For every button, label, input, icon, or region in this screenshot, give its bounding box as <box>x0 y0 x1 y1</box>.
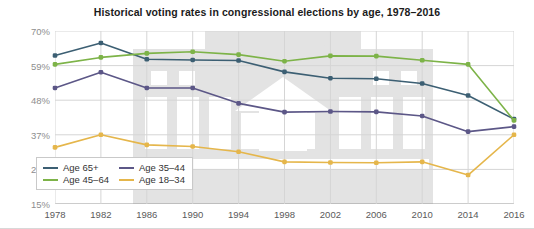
data-point-marker <box>466 62 471 67</box>
legend-color-swatch <box>119 179 134 181</box>
series-line <box>55 72 514 131</box>
x-axis-tick-label: 2014 <box>458 209 479 220</box>
data-point-marker <box>236 52 241 57</box>
data-point-marker <box>190 86 195 91</box>
y-axis-tick-label: 37% <box>6 129 50 140</box>
data-point-marker <box>466 129 471 134</box>
data-point-marker <box>236 101 241 106</box>
data-point-marker <box>145 57 150 62</box>
data-point-marker <box>466 173 471 178</box>
legend-label: Age 45–64 <box>63 174 109 185</box>
data-point-marker <box>420 114 425 119</box>
data-point-marker <box>374 160 379 165</box>
data-point-marker <box>374 54 379 59</box>
data-point-marker <box>420 58 425 63</box>
data-point-marker <box>374 77 379 82</box>
data-point-marker <box>190 49 195 54</box>
data-point-marker <box>236 58 241 63</box>
data-point-marker <box>420 81 425 86</box>
chart-container: Historical voting rates in congressional… <box>0 0 534 229</box>
legend-label: Age 35–44 <box>139 162 185 173</box>
data-point-marker <box>282 70 287 75</box>
x-axis-tick-label: 1990 <box>182 209 203 220</box>
data-point-marker <box>282 59 287 64</box>
data-point-marker <box>145 143 150 148</box>
data-point-marker <box>53 145 58 150</box>
data-point-marker <box>190 144 195 149</box>
data-point-marker <box>512 124 517 129</box>
x-axis-tick-label: 2016 <box>503 209 524 220</box>
x-axis-tick-label: 1978 <box>44 209 65 220</box>
data-point-marker <box>99 55 104 60</box>
data-point-marker <box>328 76 333 81</box>
legend-color-swatch <box>119 167 134 169</box>
data-point-marker <box>466 93 471 98</box>
legend-item[interactable]: Age 18–34 <box>119 174 185 185</box>
data-point-marker <box>190 58 195 63</box>
x-axis-tick-label: 2006 <box>366 209 387 220</box>
x-axis-tick-label: 1994 <box>228 209 249 220</box>
legend-label: Age 65+ <box>63 162 99 173</box>
data-point-marker <box>145 51 150 56</box>
y-axis-tick-label: 48% <box>6 95 50 106</box>
chart-title: Historical voting rates in congressional… <box>0 6 534 18</box>
data-point-marker <box>512 133 517 138</box>
data-point-marker <box>328 54 333 59</box>
data-point-marker <box>53 62 58 67</box>
legend-color-swatch <box>43 179 58 181</box>
data-point-marker <box>53 86 58 91</box>
series-line <box>55 43 514 119</box>
data-point-marker <box>99 70 104 75</box>
x-axis-tick-label: 1982 <box>90 209 111 220</box>
data-point-marker <box>512 118 517 123</box>
chart-legend: Age 65+Age 35–44Age 45–64Age 18–34 <box>36 157 193 190</box>
data-point-marker <box>53 53 58 58</box>
data-point-marker <box>282 160 287 165</box>
x-axis-tick-label: 1998 <box>274 209 295 220</box>
data-point-marker <box>282 110 287 115</box>
data-point-marker <box>328 160 333 165</box>
data-point-marker <box>420 160 425 165</box>
legend-label: Age 18–34 <box>139 174 185 185</box>
legend-item[interactable]: Age 35–44 <box>119 162 185 173</box>
data-point-marker <box>99 41 104 46</box>
y-axis-tick-label: 15% <box>6 199 50 210</box>
data-point-marker <box>236 149 241 154</box>
data-point-marker <box>145 86 150 91</box>
y-axis-tick-label: 70% <box>6 26 50 37</box>
data-point-marker <box>99 133 104 138</box>
legend-item[interactable]: Age 45–64 <box>43 174 109 185</box>
legend-color-swatch <box>43 167 58 169</box>
x-axis-tick-label: 2010 <box>412 209 433 220</box>
data-point-marker <box>374 110 379 115</box>
data-point-marker <box>328 109 333 114</box>
y-axis-tick-label: 59% <box>6 60 50 71</box>
legend-item[interactable]: Age 65+ <box>43 162 109 173</box>
x-axis-tick-label: 2002 <box>320 209 341 220</box>
x-axis-tick-label: 1986 <box>136 209 157 220</box>
